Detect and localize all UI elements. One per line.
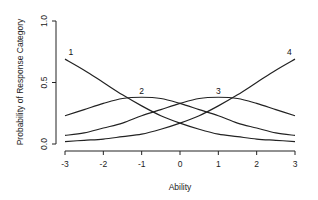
y-axis-title: Probability of Response Category (15, 18, 25, 145)
curve-labels: 1234 (68, 47, 292, 95)
x-axis: -3-2-10123 (61, 151, 297, 169)
x-axis-title: Ability (169, 182, 192, 192)
y-tick-label: 0.0 (39, 138, 49, 150)
category-3-label: 3 (216, 86, 221, 96)
x-tick-label: 0 (178, 159, 183, 169)
curves (65, 59, 295, 141)
category-4-label: 4 (287, 47, 292, 57)
item-category-response-chart: 0.00.51.0 -3-2-10123 1234 Ability Probab… (0, 0, 318, 200)
x-tick-label: -1 (138, 159, 146, 169)
x-tick-label: 1 (216, 159, 221, 169)
x-tick-label: -3 (61, 159, 69, 169)
x-tick-label: 2 (254, 159, 259, 169)
category-1-label: 1 (68, 47, 73, 57)
y-tick-label: 1.0 (39, 15, 49, 27)
x-tick-label: 3 (293, 159, 298, 169)
category-3-curve (65, 97, 295, 135)
y-tick-label: 0.5 (39, 76, 49, 88)
x-tick-label: -2 (100, 159, 108, 169)
y-axis: 0.00.51.0 (39, 15, 56, 150)
category-2-label: 2 (139, 86, 144, 96)
